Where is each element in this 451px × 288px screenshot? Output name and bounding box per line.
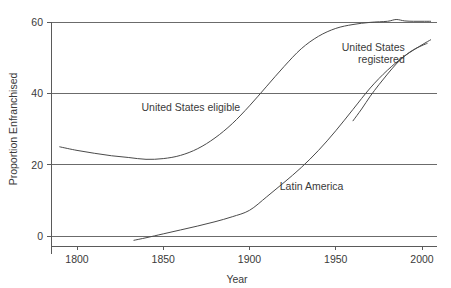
x-axis-title: Year — [226, 273, 248, 285]
chart-container: 020406018001850190019502000 United State… — [0, 0, 451, 288]
enfranchisement-line-chart: 020406018001850190019502000 United State… — [0, 0, 451, 288]
x-tick-label-2000: 2000 — [410, 253, 434, 265]
series-label-united-states-eligible: United States eligible — [142, 101, 241, 113]
y-tick-label-20: 20 — [31, 159, 43, 171]
x-tick-label-1950: 1950 — [324, 253, 348, 265]
y-tick-label-60: 60 — [31, 16, 43, 28]
x-tick-label-1900: 1900 — [238, 253, 262, 265]
y-tick-label-0: 0 — [37, 230, 43, 242]
series-label-latin-america: Latin America — [280, 180, 344, 192]
series-line-latin-america — [134, 40, 431, 240]
x-tick-label-1800: 1800 — [65, 253, 89, 265]
series-label-united-states-registered: United Statesregistered — [342, 41, 405, 65]
x-tick-label-1850: 1850 — [152, 253, 176, 265]
y-axis-title: Proportion Enfranchised — [7, 73, 19, 186]
y-tick-label-40: 40 — [31, 87, 43, 99]
series-labels-group: United States eligibleLatin AmericaUnite… — [142, 41, 405, 192]
